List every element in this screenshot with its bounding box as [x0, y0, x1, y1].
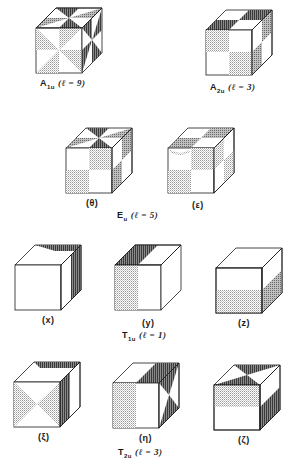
cube-eu-epsilon: [168, 128, 238, 194]
rep-letter: A: [40, 78, 47, 88]
caption-epsilon: (ε): [192, 200, 204, 210]
cube-t1u-x: [15, 245, 85, 311]
label-t2u: T2u (ℓ = 3): [118, 447, 163, 459]
caption-zeta: (ζ): [238, 435, 250, 445]
label-a2u: A2u (ℓ = 3): [210, 82, 256, 94]
cube-eu-theta: [66, 128, 136, 194]
l-value: (ℓ = 3): [228, 82, 255, 92]
label-a1u: A1u (ℓ = 9): [40, 78, 86, 90]
caption-xi: (ξ): [38, 432, 50, 442]
caption-x: (x): [42, 315, 55, 325]
rep-subscript: 1u: [128, 336, 136, 342]
caption-eta: (η): [139, 433, 152, 443]
caption-theta: (θ): [86, 198, 98, 208]
cube-t2u-eta: [113, 363, 183, 429]
cube-t2u-zeta: [214, 365, 284, 431]
rep-subscript: 1u: [47, 84, 55, 90]
l-value: (ℓ = 5): [131, 210, 158, 220]
cube-t1u-y: [115, 245, 185, 311]
l-value: (ℓ = 1): [139, 330, 166, 340]
rep-subscript: 2u: [217, 88, 225, 94]
cube-a2u: [206, 10, 276, 76]
cube-t1u-z: [216, 248, 286, 314]
l-value: (ℓ = 3): [135, 447, 162, 457]
caption-z: (z): [238, 318, 250, 328]
rep-subscript: u: [124, 216, 128, 222]
rep-subscript: 2u: [124, 453, 132, 459]
caption-y: (y): [142, 318, 155, 328]
rep-letter: A: [210, 82, 217, 92]
label-t1u: T1u (ℓ = 1): [122, 330, 167, 342]
label-eu: Eu (ℓ = 5): [117, 210, 158, 222]
l-value: (ℓ = 9): [58, 78, 85, 88]
cube-t2u-xi: [14, 362, 84, 428]
cube-a1u: [36, 8, 106, 74]
